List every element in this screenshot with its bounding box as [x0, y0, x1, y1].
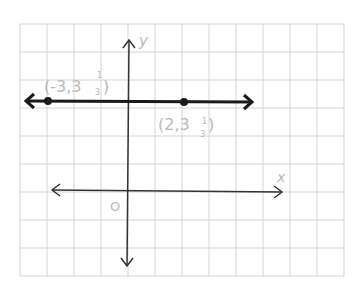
point-a — [44, 97, 52, 105]
svg-text:1: 1 — [97, 71, 102, 80]
y-axis-label: y — [138, 32, 149, 50]
y-axis — [121, 40, 135, 266]
point-a-label: (-3,3 1 3 ) — [44, 71, 109, 97]
point-b — [180, 98, 188, 106]
coordinate-graph: y x O (-3,3 1 3 ) (2,3 1 3 ) — [0, 0, 359, 298]
plotted-line — [26, 94, 252, 109]
svg-text:): ) — [208, 115, 214, 134]
x-axis — [52, 184, 282, 198]
svg-text:1: 1 — [202, 117, 207, 126]
svg-text:(-3,3: (-3,3 — [44, 77, 81, 96]
x-axis-label: x — [276, 169, 286, 185]
point-b-label: (2,3 1 3 ) — [158, 115, 214, 139]
svg-text:): ) — [103, 77, 109, 96]
origin-label: O — [110, 199, 120, 214]
grid — [20, 24, 344, 276]
svg-text:(2,3: (2,3 — [158, 115, 190, 134]
svg-text:3: 3 — [200, 130, 205, 139]
svg-text:3: 3 — [95, 88, 100, 97]
